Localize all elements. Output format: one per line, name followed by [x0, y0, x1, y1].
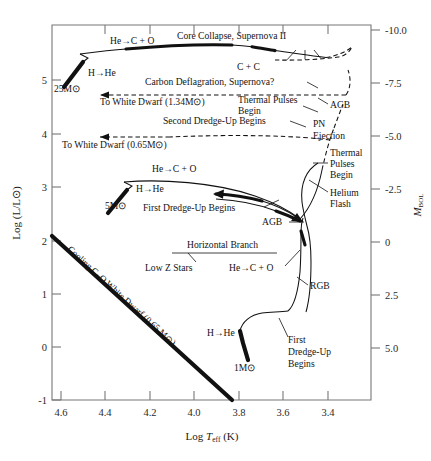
- annotation-he-to-co-mid: He→C + O: [152, 163, 196, 174]
- y2-axis-title: MBOL: [411, 193, 425, 217]
- annotation-agb-top: AGB: [330, 99, 350, 110]
- annotation-first-dredge-1a: First: [288, 334, 306, 345]
- annotation-pn: PN: [313, 118, 325, 129]
- annotation-thermal-2a: Thermal: [330, 147, 363, 158]
- annotation-second-dredge: Second Dredge-Up Begins: [163, 115, 266, 126]
- svg-text:MBOL: MBOL: [411, 193, 425, 217]
- x-tick-label: 3.6: [276, 407, 289, 418]
- annotation-mass-5: 5M⊙: [105, 200, 126, 211]
- leader-low-z: [188, 253, 196, 262]
- y-tick-label: 1: [42, 289, 47, 300]
- annotation-c-plus-c: C + C: [237, 61, 260, 72]
- annotation-low-z-stars: Low Z Stars: [145, 262, 193, 273]
- y-tick-label: 0: [42, 342, 47, 353]
- leader-helium-flash: [309, 180, 328, 192]
- x-tick-label: 4.4: [98, 407, 112, 418]
- y2-tick-label: -7.5: [385, 78, 402, 89]
- annotation-first-dredge-1c: Begins: [288, 358, 315, 369]
- annotation-rgb: RGB: [310, 280, 330, 291]
- x-tick-label: 3.8: [232, 407, 245, 418]
- x-title-suffix: (K): [220, 430, 238, 443]
- y2-tick-label: 2.5: [385, 290, 398, 301]
- annotation-thermal-2c: Begin: [330, 169, 353, 180]
- y2-axis-ticks: [371, 30, 380, 348]
- y2-tick-label: -10.0: [385, 25, 407, 36]
- x-axis-tick-labels: 4.6 4.4 4.2 4.0 3.8 3.6 3.4: [54, 407, 335, 418]
- annotation-h-to-he-5: H→He: [136, 183, 164, 194]
- annotation-he-to-co-hb: He→C + O: [229, 262, 273, 273]
- hr-diagram-figure: 4.6 4.4 4.2 4.0 3.8 3.6 3.4 Log Teff (K)…: [0, 0, 431, 461]
- x-tick-label: 3.4: [321, 407, 335, 418]
- annotation-helium-flash-b: Flash: [330, 198, 351, 209]
- annotation-h-to-he-25: H→He: [88, 67, 116, 78]
- annotation-mass-1: 1M⊙: [234, 362, 255, 373]
- x-axis-title: Log Teff (K): [186, 430, 239, 444]
- y-tick-label: 4: [42, 129, 48, 140]
- y-tick-label: 3: [42, 182, 47, 193]
- y-tick-label: 2: [42, 236, 47, 247]
- y-tick-label: 5: [42, 75, 47, 86]
- x-axis-ticks: [61, 391, 328, 400]
- annotation-core-collapse: Core Collapse, Supernova II: [177, 30, 286, 41]
- y2-tick-label: 0: [385, 237, 390, 248]
- annotation-to-wd-134: To White Dwarf (1.34M⊙): [100, 96, 205, 108]
- svg-text:Log (L/L⊙): Log (L/L⊙): [10, 186, 23, 240]
- leader-agb-top: [318, 98, 328, 104]
- annotation-horizontal-branch: Horizontal Branch: [187, 239, 258, 250]
- x-tick-label: 4.6: [54, 407, 67, 418]
- y2-axis-tick-labels: -10.0 -7.5 -5.0 -2.5 0 2.5 5.0: [385, 25, 407, 354]
- annotation-agb-mid: AGB: [262, 216, 282, 227]
- leader-first-dredge-1: [279, 318, 288, 337]
- annotation-helium-flash-a: Helium: [330, 187, 359, 198]
- x-tick-label: 4.2: [143, 407, 156, 418]
- y-tick-label: -1: [38, 395, 47, 406]
- annotation-mass-25: 25M⊙: [54, 83, 80, 94]
- annotation-he-to-co-top: He→C + O: [110, 35, 154, 46]
- y-axis-tick-labels: 5 4 3 2 1 0 -1: [38, 75, 48, 406]
- y2-tick-label: 5.0: [385, 343, 398, 354]
- x-tick-label: 4.0: [187, 407, 200, 418]
- y2-tick-label: -5.0: [385, 131, 402, 142]
- annotation-first-dredge-1b: Dredge-Up: [288, 346, 331, 357]
- y2-title-sub: BOL: [417, 193, 425, 207]
- leader-second-dredge: [290, 121, 306, 127]
- annotation-carbon-deflagration: Carbon Deflagration, Supernova?: [145, 76, 274, 87]
- annotation-h-to-he-1: H→He: [207, 327, 235, 338]
- annotation-cooling-wd: Cooling C–O White Dwarf (0.65 M⊙): [66, 244, 178, 347]
- y-axis-title: Log (L/L⊙): [10, 186, 23, 240]
- annotation-to-wd-065: To White Dwarf (0.65M⊙): [62, 139, 167, 151]
- leader-carbon-deflagration: [307, 82, 318, 88]
- annotation-first-dredge-5: First Dredge-Up Begins: [143, 202, 235, 213]
- leader-he-to-co-hb: [285, 250, 300, 266]
- annotation-ejection: Ejection: [313, 130, 345, 141]
- y2-tick-label: -2.5: [385, 184, 402, 195]
- svg-text:Log Teff (K): Log Teff (K): [186, 430, 239, 444]
- x-title-prefix: Log: [186, 430, 206, 442]
- annotation-thermal-pulses-1: Thermal Pulses: [238, 94, 298, 105]
- annotation-thermal-2b: Pulses: [330, 158, 355, 169]
- leader-thermal-pulses-1: [303, 106, 318, 112]
